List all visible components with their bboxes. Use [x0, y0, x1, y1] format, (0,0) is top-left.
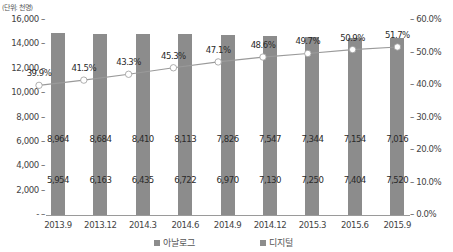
digital-value-label: 6,970	[217, 174, 239, 185]
rate-value-label: 48.6%	[251, 39, 276, 50]
x-axis-label: 2015.3	[299, 219, 327, 230]
analog-value-label: 7,826	[217, 133, 239, 144]
rate-value-label: 51.7%	[385, 29, 410, 40]
x-axis-label: 2014.12	[254, 219, 287, 230]
rate-value-label: 49.7%	[295, 35, 320, 46]
legend-swatch-digital	[260, 240, 266, 246]
digital-value-label: 6,435	[132, 174, 154, 185]
line-marker	[260, 54, 266, 60]
line-marker	[305, 50, 311, 56]
x-axis-label: 2015.6	[341, 219, 369, 230]
digital-value-label: 6,722	[174, 174, 196, 185]
legend-swatch-analog	[154, 240, 160, 246]
rate-value-label: 43.3%	[116, 56, 141, 67]
line-marker	[36, 82, 42, 88]
rate-value-label: 45.3%	[161, 50, 186, 61]
line-marker	[170, 65, 176, 71]
x-axis-label: 2014.3	[129, 219, 157, 230]
digital-value-label: 7,404	[344, 174, 366, 185]
x-axis-label: 2013.9	[44, 219, 72, 230]
analog-value-label: 8,113	[174, 133, 196, 144]
line-marker	[349, 46, 355, 52]
digital-value-label: 7,520	[386, 174, 408, 185]
analog-value-label: 8,684	[89, 133, 111, 144]
rate-value-label: 50.9%	[340, 32, 365, 43]
analog-value-label: 7,154	[344, 133, 366, 144]
legend-label-digital: 디지털	[269, 236, 293, 249]
x-axis-label: 2014.6	[171, 219, 199, 230]
analog-value-label: 7,016	[386, 133, 408, 144]
analog-value-label: 7,344	[301, 133, 323, 144]
x-axis-label: 2013.12	[84, 219, 117, 230]
line-marker	[81, 77, 87, 83]
x-axis-label: 2014.9	[214, 219, 242, 230]
line-marker	[215, 59, 221, 65]
line-marker	[394, 44, 400, 50]
rate-value-label: 41.5%	[71, 62, 96, 73]
digital-value-label: 7,130	[259, 174, 281, 185]
rate-value-label: 39.9%	[27, 67, 52, 78]
line-marker	[125, 71, 131, 77]
digital-value-label: 5,954	[47, 174, 69, 185]
legend-label-analog: 아날로그	[163, 236, 195, 249]
rate-value-label: 47.1%	[206, 44, 231, 55]
digital-value-label: 7,250	[301, 174, 323, 185]
legend-analog: 아날로그	[154, 236, 195, 249]
legend-digital: 디지털	[260, 236, 293, 249]
digital-value-label: 6,163	[89, 174, 111, 185]
analog-value-label: 7,547	[259, 133, 281, 144]
analog-value-label: 8,410	[132, 133, 154, 144]
analog-value-label: 8,964	[47, 133, 69, 144]
x-axis-label: 2015.9	[383, 219, 411, 230]
